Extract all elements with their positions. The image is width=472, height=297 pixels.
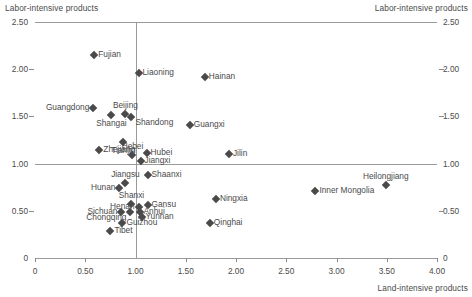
data-point-label: Heilongjiang xyxy=(363,172,409,181)
x-axis-tick-mark xyxy=(286,258,287,262)
y-axis-title-top-left: Labor-intensive products xyxy=(5,3,98,13)
diamond-marker-icon xyxy=(127,113,135,121)
x-axis-tick-mark xyxy=(337,258,338,262)
x-axis-tick-mark xyxy=(437,258,438,262)
x-axis-tick-mark xyxy=(85,258,86,262)
x-axis-tick-mark xyxy=(387,258,388,262)
x-axis-tick-label: 0 xyxy=(15,266,55,276)
data-point-label: Guangxi xyxy=(194,120,225,129)
x-axis-tick-mark xyxy=(236,258,237,262)
data-point-label: Hainan xyxy=(209,72,235,81)
data-point-label: Hebei xyxy=(122,142,144,151)
data-point-label: Ningxia xyxy=(220,194,248,203)
y-axis-tick-label-left: 2.00 xyxy=(0,64,28,74)
y-axis-tick-label-left: 2.50 xyxy=(0,17,28,27)
data-point-label: Jiangsu xyxy=(111,170,140,179)
scatter-chart: Labor-intensive products Labor-intensive… xyxy=(0,0,472,297)
diamond-marker-icon xyxy=(95,146,103,154)
y-axis-tick-label-right: 1.00 xyxy=(443,159,472,169)
axis-line-top xyxy=(35,22,437,23)
data-point-label: Shanxi xyxy=(119,191,144,200)
diamond-marker-icon xyxy=(201,73,209,81)
data-point-label: Liaoning xyxy=(143,68,174,77)
y-axis-tick-label-right: 1.50 xyxy=(443,111,472,121)
x-axis-tick-mark xyxy=(186,258,187,262)
y-axis-tick-mark-left xyxy=(29,69,34,70)
data-point-label: Hunan xyxy=(91,183,115,192)
data-point-label: Jiangxi xyxy=(145,156,171,165)
data-point-label: Guangdong xyxy=(46,103,89,112)
diamond-marker-icon xyxy=(225,150,233,158)
y-axis-tick-label-right: 0.50 xyxy=(443,206,472,216)
y-axis-tick-mark-right xyxy=(439,211,444,212)
x-axis-tick-label: 2.50 xyxy=(266,266,306,276)
y-axis-tick-mark-right xyxy=(439,116,444,117)
y-axis-tick-mark-left xyxy=(29,116,34,117)
y-axis-tick-label-right: 2.00 xyxy=(443,64,472,74)
data-point-label: Fujian xyxy=(98,50,121,59)
data-point-label: Beijing xyxy=(113,101,138,110)
data-point-label: Inner Mongolia xyxy=(319,186,374,195)
x-axis-title: Land-intensive products xyxy=(378,283,468,293)
x-axis-tick-label: 3.50 xyxy=(367,266,407,276)
diamond-marker-icon xyxy=(143,171,151,179)
y-axis-tick-mark-right xyxy=(439,69,444,70)
y-axis-tick-label-left: 1.50 xyxy=(0,111,28,121)
diamond-marker-icon xyxy=(206,219,214,227)
x-axis-tick-label: 1.00 xyxy=(116,266,156,276)
reference-line-horizontal xyxy=(35,164,437,165)
x-axis-tick-label: 0.50 xyxy=(65,266,105,276)
y-axis-tick-label-left: 1.00 xyxy=(0,159,28,169)
diamond-marker-icon xyxy=(90,51,98,59)
diamond-marker-icon xyxy=(106,226,114,234)
data-point-label: Shaanxi xyxy=(152,170,182,179)
x-axis-tick-label: 1.50 xyxy=(166,266,206,276)
y-axis-tick-label-left: 0 xyxy=(0,253,28,263)
y-axis-title-top-right: Labor-intensive products xyxy=(375,3,468,13)
diamond-marker-icon xyxy=(89,104,97,112)
x-axis-tick-mark xyxy=(35,258,36,262)
x-axis-tick-label: 2.00 xyxy=(216,266,256,276)
x-axis-tick-label: 4.00 xyxy=(417,266,457,276)
diamond-marker-icon xyxy=(186,121,194,129)
y-axis-tick-mark-left xyxy=(29,211,34,212)
y-axis-tick-label-right: 0 xyxy=(443,253,472,263)
data-point-label: Jilin xyxy=(233,149,247,158)
data-point-label: Shandong xyxy=(135,118,173,127)
data-point-label: Tibet xyxy=(114,226,132,235)
y-axis-tick-label-left: 0.50 xyxy=(0,206,28,216)
x-axis-tick-label: 3.00 xyxy=(317,266,357,276)
diamond-marker-icon xyxy=(311,187,319,195)
data-point-label: Shangai xyxy=(96,119,126,128)
y-axis-tick-label-right: 2.50 xyxy=(443,17,472,27)
diamond-marker-icon xyxy=(381,181,389,189)
data-point-label: Qinghai xyxy=(214,218,243,227)
diamond-marker-icon xyxy=(212,194,220,202)
